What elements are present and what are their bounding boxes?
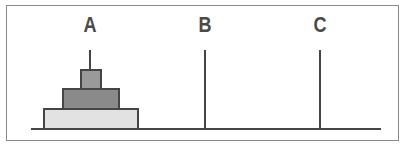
disk-large [43, 108, 139, 130]
peg-label-b: B [193, 13, 218, 37]
peg-label-a: A [78, 13, 103, 37]
peg-c [319, 50, 321, 129]
disk-small [80, 69, 102, 90]
peg-b [204, 50, 206, 129]
peg-a [89, 50, 91, 70]
disk-medium [62, 88, 120, 110]
peg-label-c: C [308, 13, 333, 37]
